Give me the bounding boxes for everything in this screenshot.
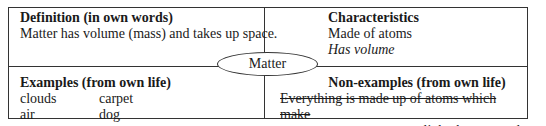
non-examples-line2: up matter energy, light, heat, sound <box>280 123 520 126</box>
definition-quadrant: Definition (in own words) Matter has vol… <box>20 10 277 42</box>
example-item: air <box>20 107 99 123</box>
struck-out-text-line2: up matter <box>280 123 333 126</box>
characteristic-item: Made of atoms <box>328 26 419 42</box>
examples-heading: Examples (from own life) <box>20 75 179 91</box>
non-examples-text: energy, light, heat, sound <box>380 123 520 126</box>
characteristic-item: Has volume <box>328 42 419 58</box>
example-item: clouds <box>20 91 99 107</box>
definition-text: Matter has volume (mass) and takes up sp… <box>20 26 277 42</box>
center-term: Matter <box>249 56 286 72</box>
center-term-oval: Matter <box>217 52 318 76</box>
characteristics-quadrant: Characteristics Made of atoms Has volume <box>328 10 419 58</box>
examples-list: clouds carpet air dog <box>20 91 179 123</box>
non-examples-quadrant: Non-examples (from own life) Everything … <box>280 75 520 126</box>
struck-out-text-line1: Everything is made up of atoms which mak… <box>280 91 520 123</box>
examples-quadrant: Examples (from own life) clouds carpet a… <box>20 75 179 123</box>
example-item: dog <box>99 107 179 123</box>
example-item: carpet <box>99 91 179 107</box>
definition-heading: Definition (in own words) <box>20 10 277 26</box>
characteristics-heading: Characteristics <box>328 10 419 26</box>
non-examples-heading: Non-examples (from own life) <box>280 75 520 91</box>
